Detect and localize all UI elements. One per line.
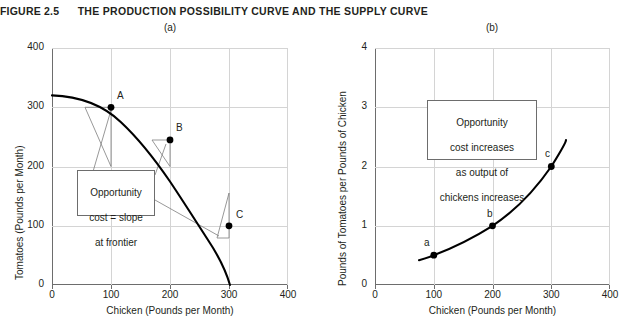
panel-a-slope-triangle-B: [152, 140, 170, 167]
panel-a-leader-A: [92, 110, 111, 175]
panel-a: (a) Tomatoes (Pounds per Month) 0 100 20…: [0, 0, 320, 318]
panel-b-xtickmark-200: [493, 285, 494, 289]
panel-b-plot-area: a b c Opportunity cost increases as outp…: [375, 48, 610, 285]
panel-b-letter: (b): [472, 22, 512, 33]
panel-b: (b) Pounds of Tomatoes per Pounds of Chi…: [320, 0, 626, 318]
panel-b-xtickmark-400: [609, 285, 610, 289]
figure-root: FIGURE 2.5 THE PRODUCTION POSSIBILITY CU…: [0, 0, 626, 318]
panel-b-callout-line2: cost increases: [428, 142, 536, 155]
panel-b-xtick-400: 400: [590, 289, 626, 300]
panel-b-ytick-3: 3: [333, 100, 367, 111]
panel-b-xtickmark-0: [375, 285, 376, 289]
panel-a-leader-C: [155, 200, 219, 236]
panel-b-x-axis-title: Chicken (Pounds per Month): [375, 305, 610, 316]
panel-a-point-label-B: B: [176, 122, 183, 133]
panel-a-ytick-400: 400: [10, 41, 44, 52]
panel-a-xtick-100: 100: [91, 289, 131, 300]
panel-b-y-axis-title: Pounds of Tomatoes per Pounds of Chicken: [337, 91, 348, 286]
panel-a-callout-line3: at frontier: [78, 237, 154, 250]
panel-a-xtickmark-200: [170, 285, 171, 289]
panel-a-slope-triangle-A: [85, 107, 111, 166]
panel-a-xtick-400: 400: [268, 289, 308, 300]
panel-b-ytick-2: 2: [333, 160, 367, 171]
panel-a-xtickmark-0: [52, 285, 53, 289]
panel-b-callout-line4: chickens increases: [428, 192, 536, 205]
panel-b-xtickmark-100: [434, 285, 435, 289]
panel-a-xtick-300: 300: [209, 289, 249, 300]
panel-b-callout-line1: Opportunity: [428, 117, 536, 130]
panel-a-leader-B: [155, 144, 166, 175]
panel-b-xtick-200: 200: [473, 289, 513, 300]
panel-b-point-label-c: c: [545, 148, 550, 159]
panel-a-slope-triangle-C: [217, 193, 229, 238]
panel-a-gridline-y400: [52, 48, 288, 49]
panel-a-xtickmark-300: [229, 285, 230, 289]
panel-a-callout-line2: cost = slope: [78, 212, 154, 225]
panel-b-xtick-100: 100: [414, 289, 454, 300]
panel-a-ytick-300: 300: [10, 100, 44, 111]
panel-b-ytick-1: 1: [333, 219, 367, 230]
panel-b-point-label-a: a: [424, 237, 430, 248]
panel-a-xtick-200: 200: [150, 289, 190, 300]
panel-a-point-label-C: C: [236, 209, 243, 220]
panel-b-callout: Opportunity cost increases as output of …: [427, 100, 537, 160]
panel-b-ytick-0: 0: [333, 278, 367, 289]
panel-b-xtick-0: 0: [355, 289, 395, 300]
panel-b-xtick-300: 300: [531, 289, 571, 300]
panel-b-ytick-4: 4: [333, 41, 367, 52]
panel-b-gridline-y4: [375, 48, 610, 49]
panel-a-xtick-0: 0: [32, 289, 72, 300]
panel-a-gridline-y300: [52, 107, 288, 108]
panel-b-gridline-y1: [375, 226, 610, 227]
panel-a-letter: (a): [150, 22, 190, 33]
panel-a-callout: Opportunity cost = slope at frontier: [77, 170, 155, 216]
panel-a-gridline-y200: [52, 167, 288, 168]
panel-b-xtickmark-300: [551, 285, 552, 289]
panel-a-ytick-100: 100: [10, 219, 44, 230]
panel-b-callout-line3: as output of: [428, 167, 536, 180]
panel-a-xtickmark-400: [287, 285, 288, 289]
panel-a-callout-line1: Opportunity: [78, 187, 154, 200]
panel-a-x-axis-title: Chicken (Pounds per Month): [52, 305, 288, 316]
panel-a-xtickmark-100: [111, 285, 112, 289]
panel-a-plot-area: A B C Opportunity cost = slope at fronti…: [52, 48, 288, 285]
panel-a-ytick-0: 0: [10, 278, 44, 289]
panel-a-ytick-200: 200: [10, 160, 44, 171]
panel-a-point-label-A: A: [117, 90, 124, 101]
